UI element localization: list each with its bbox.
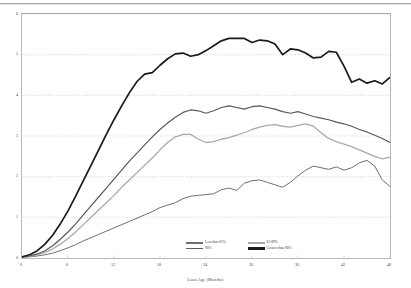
y-axis-tick-label: 0 — [4, 255, 18, 260]
legend-label: 81-89% — [267, 241, 278, 245]
x-axis-tick-label: 42 — [335, 262, 351, 267]
x-axis-tick-label: 36 — [289, 262, 305, 267]
legend-item: Less than 81% — [186, 241, 226, 245]
legend-label: Greater than 90% — [267, 247, 292, 251]
x-axis-tick-label: 18 — [151, 262, 167, 267]
y-axis-tick-label: 2 — [4, 173, 18, 178]
y-axis-tick-label: 6 — [4, 11, 18, 16]
page-header-rule-secondary — [0, 4, 411, 5]
legend-swatch-icon — [248, 242, 265, 244]
legend-label: Less than 81% — [205, 241, 226, 245]
legend-column-2: 81-89% Greater than 90% — [248, 241, 292, 257]
series-lines — [22, 14, 390, 258]
plot-area — [21, 13, 391, 259]
y-axis-tick-label: 5 — [4, 51, 18, 56]
chart-legend: Less than 81% 90% 81-89% Greater than 90… — [186, 241, 331, 257]
legend-swatch-icon — [186, 242, 203, 244]
y-axis-tick-label: 4 — [4, 92, 18, 97]
legend-item: 90% — [186, 247, 226, 251]
x-axis-tick-label: 12 — [105, 262, 121, 267]
legend-item: 81-89% — [248, 241, 292, 245]
legend-label: 90% — [205, 247, 211, 251]
y-axis-tick-label: 3 — [4, 133, 18, 138]
legend-swatch-icon — [248, 247, 265, 249]
x-axis-tick-label: 48 — [381, 262, 397, 267]
x-axis-tick-label: 30 — [243, 262, 259, 267]
y-axis-tick-label: 1 — [4, 214, 18, 219]
x-axis-tick-label: 6 — [59, 262, 75, 267]
legend-item: Greater than 90% — [248, 247, 292, 251]
chart-page: CPR (%) 0123456 0612182430364248 Loan Ag… — [0, 0, 411, 288]
x-axis-tick-label: 0 — [13, 262, 29, 267]
legend-column-1: Less than 81% 90% — [186, 241, 226, 257]
legend-swatch-icon — [186, 248, 203, 250]
x-axis-tick-label: 24 — [197, 262, 213, 267]
x-axis-title: Loan Age (Months) — [0, 277, 411, 282]
